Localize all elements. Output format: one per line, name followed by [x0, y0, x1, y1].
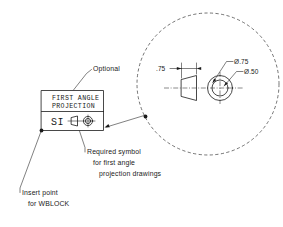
optional-label: Optional	[93, 65, 120, 73]
si-label: SI	[51, 117, 64, 128]
first-angle-projection-symbol	[68, 115, 95, 127]
technical-drawing-canvas: .75 Ø.75 Ø.50 FIRST ANGLE PROJECTION SI	[0, 0, 283, 227]
drawing-svg: .75 Ø.75 Ø.50 FIRST ANGLE PROJECTION SI	[0, 0, 283, 227]
outer-diameter-label: Ø.75	[234, 58, 249, 65]
required-symbol-leader-line	[80, 131, 86, 152]
title-block-line1: FIRST ANGLE	[52, 95, 99, 102]
balloon-leader-arrow-icon	[105, 124, 110, 128]
insert-point-leader-line	[20, 132, 41, 193]
dim-arrow-right-icon	[197, 67, 202, 70]
dimension-width-label: .75	[156, 65, 166, 72]
dim-arrow-left-icon	[177, 67, 182, 70]
required-symbol-line3: projection drawings	[99, 170, 162, 178]
insert-point-line2: for WBLOCK	[28, 200, 70, 207]
optional-leader-line	[74, 70, 92, 91]
inner-diameter-label: Ø.50	[244, 68, 259, 75]
outer-dia-leader-line	[214, 62, 234, 82]
title-block-line2: PROJECTION	[52, 103, 95, 110]
balloon-anchor-dot	[144, 115, 148, 119]
required-symbol-line2: for first angle	[93, 159, 135, 167]
required-symbol-line1: Required symbol	[87, 148, 141, 156]
insert-point-line1: Insert point	[22, 189, 58, 197]
insert-point-dot	[40, 129, 44, 133]
balloon-leader-line	[107, 116, 145, 128]
